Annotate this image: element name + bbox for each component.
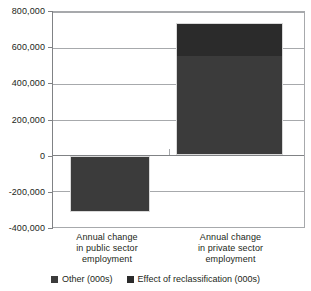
y-tick-label-400000: 400,000 [12,79,45,88]
y-tick-label-600000: 600,000 [12,43,45,52]
bar-segment-private-reclassification [176,23,283,56]
gridline-800000 [53,12,304,13]
legend-label-reclassification: Effect of reclassification (000s) [138,274,260,284]
legend-swatch-icon-reclassification [127,276,134,283]
category-label-public-line2: in public sector [62,243,152,254]
y-tick-mark-0 [48,156,52,157]
bar-segment-private-other [176,56,283,155]
y-tick-mark-600000 [48,47,52,48]
bar-segment-public-other [70,156,150,213]
zero-tick-marker [169,149,170,155]
legend-swatch-icon-other [51,276,58,283]
legend-item-other[interactable]: Other (000s) [51,274,113,284]
category-label-public-line1: Annual change [62,232,152,243]
legend-label-other: Other (000s) [62,274,113,284]
category-label-private-line1: Annual change [183,232,278,243]
y-tick-mark-minus-200000 [48,192,52,193]
y-tick-label-200000: 200,000 [12,116,45,125]
category-label-private-line2: in private sector [183,243,278,254]
bar-public-sector[interactable] [70,156,150,213]
y-tick-mark-400000 [48,83,52,84]
y-tick-mark-200000 [48,120,52,121]
y-tick-label-800000: 800,000 [12,7,45,16]
category-label-public-sector: Annual change in public sector employmen… [62,232,152,266]
y-axis-line [52,11,53,229]
y-tick-label-minus-200000: -200,000 [9,188,45,197]
y-tick-label-0: 0 [40,152,45,161]
chart-container: 800,000 600,000 400,000 200,000 0 -200,0… [0,0,311,291]
category-label-private-sector: Annual change in private sector employme… [183,232,278,266]
y-tick-mark-800000 [48,11,52,12]
category-label-public-line3: employment [62,254,152,265]
legend-item-reclassification[interactable]: Effect of reclassification (000s) [127,274,260,284]
y-tick-label-minus-400000: -400,000 [9,224,45,233]
chart-legend: Other (000s) Effect of reclassification … [0,274,311,284]
y-tick-mark-minus-400000 [48,228,52,229]
plot-area [52,11,305,228]
category-label-private-line3: employment [183,254,278,265]
bar-private-sector[interactable] [176,23,283,156]
